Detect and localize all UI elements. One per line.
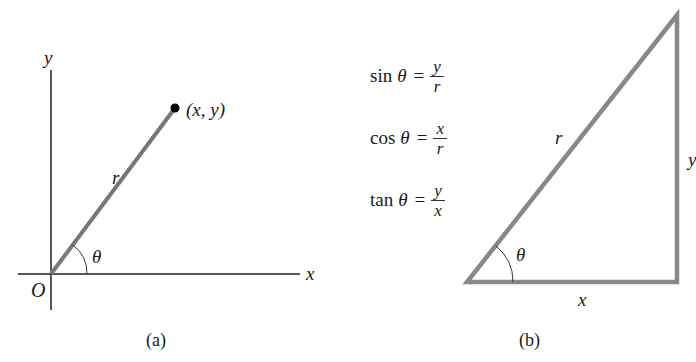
equation-cos: cos θ = x r <box>370 118 447 158</box>
opposite-label: y <box>688 150 696 169</box>
eq-equals: = <box>414 65 425 87</box>
angle-label-b: θ <box>516 245 525 264</box>
eq-var: θ <box>397 65 406 87</box>
numerator: y <box>431 182 445 201</box>
caption-b: (b) <box>519 331 540 349</box>
numerator: x <box>433 120 447 139</box>
denominator: r <box>437 139 444 157</box>
equation-tan: tan θ = y x <box>370 180 445 220</box>
point-xy <box>171 104 180 113</box>
eq-var: θ <box>400 127 409 149</box>
equation-sin: sin θ = y r <box>370 56 444 96</box>
hypotenuse-label: r <box>555 128 562 147</box>
numerator: y <box>430 58 444 77</box>
eq-equals: = <box>417 127 428 149</box>
fraction: y x <box>431 182 445 219</box>
eq-fn: cos <box>370 127 395 149</box>
radius-label: r <box>112 168 119 187</box>
angle-label-a: θ <box>92 247 101 266</box>
eq-fn: sin <box>370 65 392 87</box>
radius-segment <box>51 108 175 274</box>
y-axis-label: y <box>44 48 52 67</box>
angle-arc-a <box>73 245 87 274</box>
right-triangle <box>467 15 677 282</box>
eq-var: θ <box>398 189 407 211</box>
x-axis-label: x <box>306 264 314 283</box>
point-label: (x, y) <box>186 100 225 119</box>
eq-equals: = <box>415 189 426 211</box>
caption-a: (a) <box>146 331 166 349</box>
denominator: r <box>434 77 441 95</box>
fraction: y r <box>430 58 444 95</box>
eq-fn: tan <box>370 189 393 211</box>
denominator: x <box>434 201 442 219</box>
fraction: x r <box>433 120 447 157</box>
adjacent-label: x <box>578 290 586 309</box>
origin-label: O <box>31 280 45 300</box>
angle-arc-b <box>496 246 513 282</box>
